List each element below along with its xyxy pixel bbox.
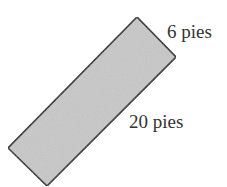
rotated-rectangle xyxy=(8,17,176,186)
length-dimension-label: 20 pies xyxy=(129,112,183,131)
width-dimension-label: 6 pies xyxy=(167,22,212,41)
